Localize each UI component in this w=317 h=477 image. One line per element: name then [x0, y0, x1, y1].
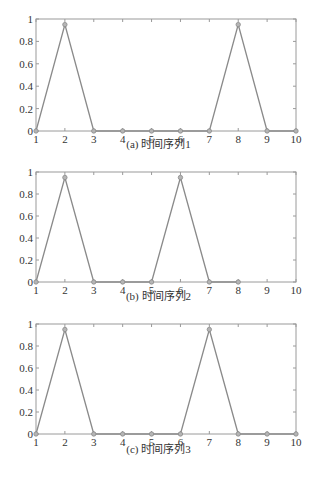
data-point-marker	[120, 432, 124, 436]
data-point-marker	[63, 327, 67, 331]
y-tick-label: 0.4	[19, 384, 33, 396]
data-point-marker	[149, 432, 153, 436]
data-point-marker	[207, 327, 211, 331]
data-point-marker	[34, 432, 38, 436]
data-point-marker	[178, 432, 182, 436]
data-point-marker	[236, 432, 240, 436]
series-line	[36, 330, 296, 435]
y-tick-label: 0.8	[19, 340, 33, 352]
chart-caption-c: (c) 时间序列3	[0, 440, 317, 456]
y-tick-label: 0.6	[19, 362, 33, 374]
y-tick-label: 1	[28, 318, 34, 330]
plot-area	[36, 324, 296, 434]
chart-panel-c: 00.20.40.60.8112345678910 (c) 时间序列3	[0, 0, 317, 460]
line-chart-c: 00.20.40.60.8112345678910	[0, 0, 317, 460]
data-point-marker	[294, 432, 298, 436]
y-tick-label: 0.2	[19, 406, 33, 418]
data-point-marker	[265, 432, 269, 436]
figure-caption	[40, 464, 280, 472]
data-point-marker	[92, 432, 96, 436]
